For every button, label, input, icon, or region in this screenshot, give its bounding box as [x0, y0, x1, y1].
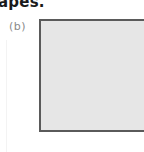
- shaded-square-shape: [39, 19, 144, 132]
- figure-part-label: (b): [9, 20, 26, 33]
- page-margin-line: [6, 40, 7, 152]
- heading-text-fragment: apes.: [0, 0, 45, 11]
